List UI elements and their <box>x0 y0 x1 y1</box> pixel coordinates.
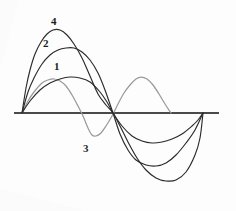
curve-2-path <box>22 48 203 167</box>
curve-4-path <box>22 29 203 181</box>
curves-group <box>22 29 203 181</box>
curve-label-4: 4 <box>51 16 57 27</box>
curve-label-3: 3 <box>83 143 89 154</box>
curve-label-2: 2 <box>43 38 49 49</box>
sine-curve-figure: 4 2 1 3 <box>0 0 236 211</box>
plot-canvas <box>0 0 236 211</box>
curve-label-1: 1 <box>54 61 60 72</box>
